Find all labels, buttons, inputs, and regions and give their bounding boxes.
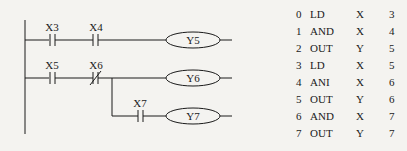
label-x7: X7 xyxy=(133,97,147,109)
device: X xyxy=(356,25,364,37)
contact-x5 xyxy=(50,72,55,84)
label-x5: X5 xyxy=(45,59,59,71)
step: 5 xyxy=(296,93,302,105)
rung-2 xyxy=(25,70,232,86)
number: 5 xyxy=(389,42,395,54)
device: X xyxy=(356,76,364,88)
contact-x7 xyxy=(138,110,143,122)
number: 5 xyxy=(389,59,395,71)
step: 7 xyxy=(296,127,302,139)
step: 1 xyxy=(296,25,302,37)
number: 7 xyxy=(389,110,395,122)
opcode: OUT xyxy=(310,93,333,105)
label-x3: X3 xyxy=(45,21,59,33)
opcode: OUT xyxy=(310,42,333,54)
label-x6: X6 xyxy=(89,59,103,71)
opcode: LD xyxy=(310,59,325,71)
step: 6 xyxy=(296,110,302,122)
label-x4: X4 xyxy=(89,21,103,33)
device: X xyxy=(356,8,364,20)
opcode: AND xyxy=(310,110,334,122)
number: 6 xyxy=(389,76,395,88)
step: 0 xyxy=(296,8,302,20)
device: Y xyxy=(356,42,364,54)
label-y5: Y5 xyxy=(186,34,200,46)
device: X xyxy=(356,59,364,71)
opcode: OUT xyxy=(310,127,333,139)
rung-3-branch xyxy=(112,78,232,124)
number: 4 xyxy=(389,25,395,37)
contact-x4 xyxy=(93,34,98,46)
number: 7 xyxy=(389,127,395,139)
label-y7: Y7 xyxy=(186,110,200,122)
step: 4 xyxy=(296,76,302,88)
opcode: ANI xyxy=(310,76,330,88)
step: 3 xyxy=(296,59,302,71)
device: X xyxy=(356,110,364,122)
label-y6: Y6 xyxy=(186,72,200,84)
rung-1 xyxy=(25,32,232,48)
step: 2 xyxy=(296,42,302,54)
device: Y xyxy=(356,127,364,139)
ladder-diagram: X3 X4 Y5 X5 X6 Y6 X7 Y7 xyxy=(0,0,260,151)
opcode: LD xyxy=(310,8,325,20)
number: 3 xyxy=(389,8,395,20)
number: 6 xyxy=(389,93,395,105)
contact-x3 xyxy=(50,34,55,46)
device: Y xyxy=(356,93,364,105)
opcode: AND xyxy=(310,25,334,37)
